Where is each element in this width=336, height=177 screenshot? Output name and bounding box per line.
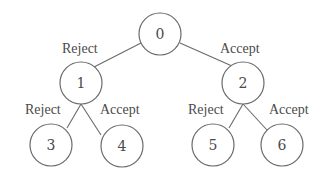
edge-0-1 [94,43,141,67]
node-label: 0 [156,26,165,42]
node-label: 5 [209,137,218,153]
tree-node-6: 6 [261,124,303,166]
node-label: 3 [47,137,56,153]
node-label: 1 [77,75,86,91]
edge-label-reject: Reject [188,102,224,117]
tree-node-3: 3 [30,124,72,166]
node-label: 4 [118,138,127,154]
tree-node-0: 0 [139,13,181,55]
nodes-layer: 0123456 [30,13,303,167]
edge-label-reject: Reject [62,41,98,56]
tree-node-2: 2 [222,62,264,104]
node-label: 6 [278,137,287,153]
tree-svg: RejectAcceptRejectAcceptRejectAccept 012… [0,0,336,177]
tree-node-1: 1 [60,62,102,104]
edge-label-accept: Accept [269,102,309,117]
edge-1-3 [67,104,81,128]
decision-tree-diagram: RejectAcceptRejectAcceptRejectAccept 012… [0,0,336,177]
edge-label-reject: Reject [25,102,61,117]
node-label: 2 [239,75,248,91]
edge-1-4 [81,104,101,135]
edge-2-5 [229,104,243,128]
tree-node-4: 4 [101,125,143,167]
tree-node-5: 5 [192,124,234,166]
edge-label-accept: Accept [220,41,260,56]
edge-label-accept: Accept [100,102,140,117]
edge-2-6 [243,104,267,130]
